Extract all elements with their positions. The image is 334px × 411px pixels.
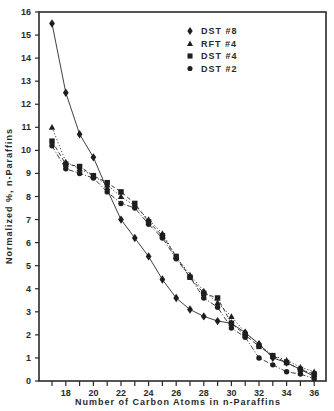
y-tick-label: 4 <box>26 284 31 294</box>
circle-marker <box>132 205 137 210</box>
y-axis-title: Normalized %, n-Paraffins <box>4 128 14 264</box>
circle-marker <box>104 189 109 194</box>
series-rft-4 <box>49 124 318 374</box>
legend-item: DST #4 <box>187 51 237 61</box>
circle-marker <box>63 166 68 171</box>
circle-marker <box>187 66 192 71</box>
y-tick-label: 2 <box>26 330 31 340</box>
y-tick-label: 8 <box>26 192 31 202</box>
circle-marker <box>173 256 178 261</box>
diamond-marker <box>187 27 192 35</box>
legend-item: DST #8 <box>187 26 237 36</box>
circle-marker <box>270 362 275 367</box>
circle-marker <box>284 369 289 374</box>
triangle-marker <box>228 313 234 319</box>
circle-marker <box>91 175 96 180</box>
x-axis-title: Number of Carbon Atoms in n-Paraffins <box>75 397 281 407</box>
circle-marker <box>229 325 234 330</box>
y-tick-label: 6 <box>26 238 31 248</box>
y-tick-label: 5 <box>26 261 31 271</box>
square-marker <box>270 353 275 358</box>
diamond-marker <box>215 317 221 325</box>
circle-marker <box>242 334 247 339</box>
square-marker <box>118 189 123 194</box>
circle-marker <box>201 295 206 300</box>
y-tick-label: 10 <box>21 145 31 155</box>
circle-marker <box>49 143 54 148</box>
chart: 012345678910111213141516 182022242628303… <box>0 0 334 411</box>
diamond-marker <box>49 19 55 27</box>
series-dst-8 <box>49 19 317 380</box>
y-tick-label: 11 <box>21 122 31 132</box>
x-axis: 18202224262830323436 <box>52 381 319 398</box>
square-marker <box>77 164 82 169</box>
circle-marker <box>77 171 82 176</box>
series-line <box>52 24 314 377</box>
x-tick-label: 34 <box>282 388 292 398</box>
series-line <box>52 146 314 379</box>
square-marker <box>284 360 289 365</box>
triangle-marker <box>49 124 55 130</box>
square-marker <box>215 295 220 300</box>
x-tick-label: 18 <box>61 388 71 398</box>
y-tick-label: 16 <box>21 7 31 17</box>
circle-marker <box>146 221 151 226</box>
diamond-marker <box>187 305 193 313</box>
x-tick-label: 36 <box>309 388 319 398</box>
y-axis: 012345678910111213141516 <box>21 7 39 386</box>
y-tick-label: 7 <box>26 215 31 225</box>
legend-item: RFT #4 <box>187 39 237 49</box>
circle-marker <box>298 371 303 376</box>
legend-label: DST #4 <box>201 51 238 61</box>
plot-frame <box>39 12 326 381</box>
plot-border <box>39 12 326 381</box>
circle-marker <box>160 235 165 240</box>
square-marker <box>256 344 261 349</box>
square-marker <box>187 53 192 58</box>
y-tick-label: 14 <box>21 53 31 63</box>
diamond-marker <box>63 89 69 97</box>
diamond-marker <box>201 312 207 320</box>
series-dst-4 <box>49 138 317 376</box>
circle-marker <box>311 376 316 381</box>
y-tick-label: 0 <box>26 376 31 386</box>
legend-item: DST #2 <box>187 64 237 74</box>
square-marker <box>104 180 109 185</box>
series-line <box>52 127 314 371</box>
legend-label: RFT #4 <box>201 39 237 49</box>
legend: DST #8RFT #4DST #4DST #2 <box>187 26 238 74</box>
circle-marker <box>187 274 192 279</box>
legend-label: DST #2 <box>201 64 238 74</box>
circle-marker <box>118 201 123 206</box>
y-tick-label: 3 <box>26 307 31 317</box>
triangle-marker <box>187 41 193 46</box>
series-layer <box>49 19 318 381</box>
y-tick-label: 9 <box>26 168 31 178</box>
circle-marker <box>256 355 261 360</box>
y-tick-label: 13 <box>21 76 31 86</box>
y-tick-label: 1 <box>26 353 31 363</box>
circle-marker <box>215 304 220 309</box>
series-dst-2 <box>49 143 317 381</box>
legend-label: DST #8 <box>201 26 238 36</box>
y-tick-label: 15 <box>21 30 31 40</box>
y-tick-label: 12 <box>21 99 31 109</box>
